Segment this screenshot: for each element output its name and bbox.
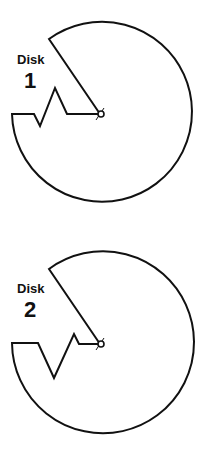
disk-1-label-number: 1 (24, 68, 36, 93)
disk-2: Disk 2 (12, 251, 194, 433)
disk-diagram: Disk 1 Disk 2 (0, 0, 203, 454)
disk-1-hub (98, 111, 104, 117)
disk-2-label-word: Disk (17, 281, 45, 296)
disk-2-hub (98, 341, 104, 347)
disk-2-label-number: 2 (24, 297, 36, 322)
disk-1: Disk 1 (12, 22, 192, 202)
disk-1-label-word: Disk (17, 52, 45, 67)
